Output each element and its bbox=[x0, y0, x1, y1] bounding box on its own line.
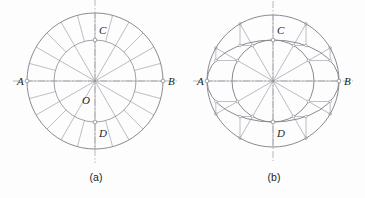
trammel-node-150-1 bbox=[215, 59, 218, 62]
point-marker-a-B bbox=[161, 79, 165, 83]
point-label-a-D: D bbox=[98, 127, 107, 139]
point-marker-b-D bbox=[271, 120, 275, 124]
spoke-b-240deg bbox=[240, 81, 273, 138]
panel-a: ABCDO bbox=[13, 0, 177, 163]
trammel-node-150-2 bbox=[236, 59, 239, 62]
point-label-a-C: C bbox=[99, 24, 107, 36]
cell-wall-a-7 bbox=[47, 110, 66, 129]
point-marker-a-D bbox=[93, 120, 97, 124]
cell-wall-a-2 bbox=[106, 15, 113, 41]
cell-wall-a-3 bbox=[77, 15, 84, 41]
point-marker-b-A bbox=[205, 79, 209, 83]
trammel-node-240-1 bbox=[239, 115, 242, 118]
trammel-node-210-2 bbox=[236, 100, 239, 103]
point-label-b-C: C bbox=[277, 24, 285, 36]
panel-caption-a: (a) bbox=[90, 171, 103, 183]
trammel-node-330-1 bbox=[329, 100, 332, 103]
cell-wall-a-4 bbox=[47, 33, 66, 52]
point-marker-a-C bbox=[93, 38, 97, 42]
point-marker-b-C bbox=[271, 38, 275, 42]
point-label-a-O: O bbox=[82, 94, 90, 106]
trammel-node-30-2 bbox=[307, 59, 310, 62]
trammel-node-330-2 bbox=[307, 100, 310, 103]
trammel-node-300-2 bbox=[292, 115, 295, 118]
trammel-node-210-1 bbox=[215, 100, 218, 103]
trammel-node-60-2 bbox=[292, 44, 295, 47]
cell-wall-a-1 bbox=[124, 33, 143, 52]
figure-container: ABCDO(a)ABCD(b) bbox=[0, 0, 365, 198]
point-label-b-A: A bbox=[196, 75, 204, 87]
cell-wall-a-5 bbox=[29, 63, 55, 70]
geometry-figure: ABCDO(a)ABCD(b) bbox=[0, 0, 365, 198]
cell-wall-a-11 bbox=[135, 92, 161, 99]
cell-wall-a-10 bbox=[124, 110, 143, 129]
trammel-node-120-1 bbox=[239, 44, 242, 47]
trammel-node-120-2 bbox=[251, 44, 254, 47]
trammel-node-300-1 bbox=[305, 115, 308, 118]
point-marker-a-A bbox=[25, 79, 29, 83]
trammel-node-60-1 bbox=[305, 44, 308, 47]
point-label-b-D: D bbox=[276, 127, 285, 139]
panel-b: ABCD bbox=[193, 1, 353, 161]
point-label-a-B: B bbox=[168, 75, 175, 87]
panel-caption-b: (b) bbox=[268, 171, 281, 183]
cell-wall-a-8 bbox=[77, 121, 84, 147]
cell-wall-a-0 bbox=[135, 63, 161, 70]
spoke-b-120deg bbox=[240, 24, 273, 81]
point-label-b-B: B bbox=[344, 75, 351, 87]
trammel-node-240-2 bbox=[251, 115, 254, 118]
cell-wall-a-6 bbox=[29, 92, 55, 99]
point-marker-b-B bbox=[337, 79, 341, 83]
trammel-node-30-1 bbox=[329, 59, 332, 62]
point-label-a-A: A bbox=[16, 75, 24, 87]
